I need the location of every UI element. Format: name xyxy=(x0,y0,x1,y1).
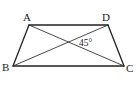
vertex-label-a: A xyxy=(23,11,31,23)
vertex-label-d: D xyxy=(102,11,110,23)
angle-label: 45° xyxy=(79,38,93,48)
vertex-label-c: C xyxy=(126,62,133,74)
vertex-label-b: B xyxy=(2,61,9,73)
trapezoid-diagram: A D B C 45° xyxy=(0,0,140,85)
